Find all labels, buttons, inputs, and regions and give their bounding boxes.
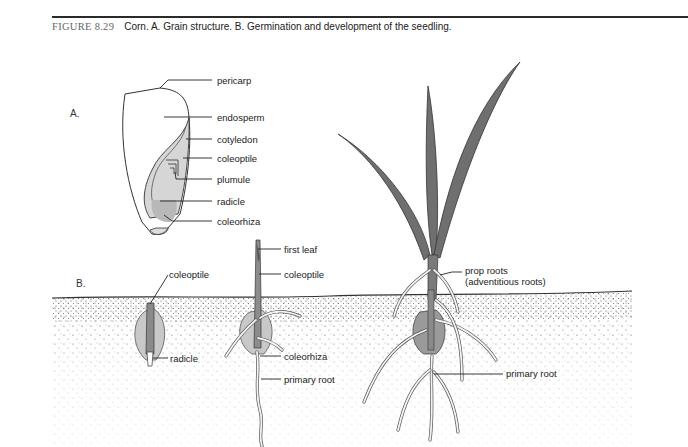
label-pericarp: pericarp	[217, 75, 251, 86]
label-coleorhiza-b2: coleorhiza	[284, 351, 328, 362]
panel-a-label: A.	[70, 108, 79, 119]
label-prop-roots: prop roots	[465, 265, 508, 276]
label-first-leaf: first leaf	[284, 244, 318, 255]
label-coleorhiza-a: coleorhiza	[217, 216, 261, 227]
label-radicle-b1: radicle	[170, 353, 198, 364]
label-primary-root-b2: primary root	[284, 374, 335, 385]
label-cotyledon: cotyledon	[217, 134, 258, 145]
label-coleoptile-b2: coleoptile	[284, 269, 324, 280]
label-radicle-a: radicle	[217, 196, 245, 207]
label-coleoptile-a: coleoptile	[217, 153, 257, 164]
label-endosperm: endosperm	[217, 112, 265, 123]
corn-diagram: A. pericarp endosperm cotyledon coleopti…	[0, 0, 688, 447]
corn-grain	[123, 88, 190, 235]
label-adventitious-roots: (adventitious roots)	[465, 276, 546, 287]
label-plumule: plumule	[217, 174, 250, 185]
label-primary-root-b3: primary root	[506, 368, 557, 379]
label-coleoptile-b1: coleoptile	[169, 269, 209, 280]
panel-b-label: B.	[76, 278, 85, 289]
